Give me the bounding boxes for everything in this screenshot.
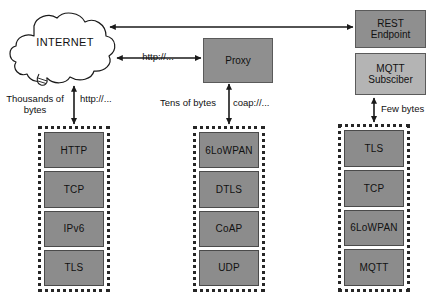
stack-layer[interactable]: UDP <box>199 250 259 286</box>
diagram-canvas: REST Endpoint (long top double arrow) --… <box>0 0 443 306</box>
proxy-label: Proxy <box>225 55 251 67</box>
label-thousands-of-bytes: Thousands of bytes <box>0 93 70 116</box>
internet-cloud <box>6 6 124 90</box>
stack-layer[interactable]: TLS <box>44 250 104 286</box>
stack-layer[interactable]: 6LoWPAN <box>344 210 404 247</box>
label-few-bytes: Few bytes <box>381 103 439 114</box>
internet-cloud-label: INTERNET <box>6 36 124 48</box>
stack-layer[interactable]: MQTT <box>344 249 404 286</box>
stack-layer[interactable]: TLS <box>344 130 404 167</box>
stack-layer[interactable]: HTTP <box>44 132 104 168</box>
proxy-box[interactable]: Proxy <box>203 38 273 83</box>
stack-layer[interactable]: TCP <box>44 171 104 207</box>
coap-protocol-stack: 6LoWPAN DTLS CoAP UDP <box>193 126 265 292</box>
stack-layer[interactable]: IPv6 <box>44 211 104 247</box>
http-protocol-stack: HTTP TCP IPv6 TLS <box>38 126 110 292</box>
stack-layer[interactable]: 6LoWPAN <box>199 132 259 168</box>
mqtt-protocol-stack: TLS TCP 6LoWPAN MQTT <box>338 124 410 292</box>
stack-layer[interactable]: DTLS <box>199 171 259 207</box>
label-coap: coap://... <box>233 97 289 108</box>
mqtt-subscriber-label: MQTT Subsciber <box>368 63 412 86</box>
cloud-icon <box>6 6 124 90</box>
mqtt-subscriber-box[interactable]: MQTT Subsciber <box>355 53 426 95</box>
label-http-proxy: http://... <box>127 51 189 62</box>
rest-endpoint-box[interactable]: REST Endpoint <box>355 10 426 48</box>
stack-layer[interactable]: TCP <box>344 170 404 207</box>
label-tens-of-bytes: Tens of bytes <box>152 97 224 108</box>
rest-endpoint-label: REST Endpoint <box>371 18 410 41</box>
stack-layer[interactable]: CoAP <box>199 211 259 247</box>
label-http-left: http://... <box>80 93 138 104</box>
